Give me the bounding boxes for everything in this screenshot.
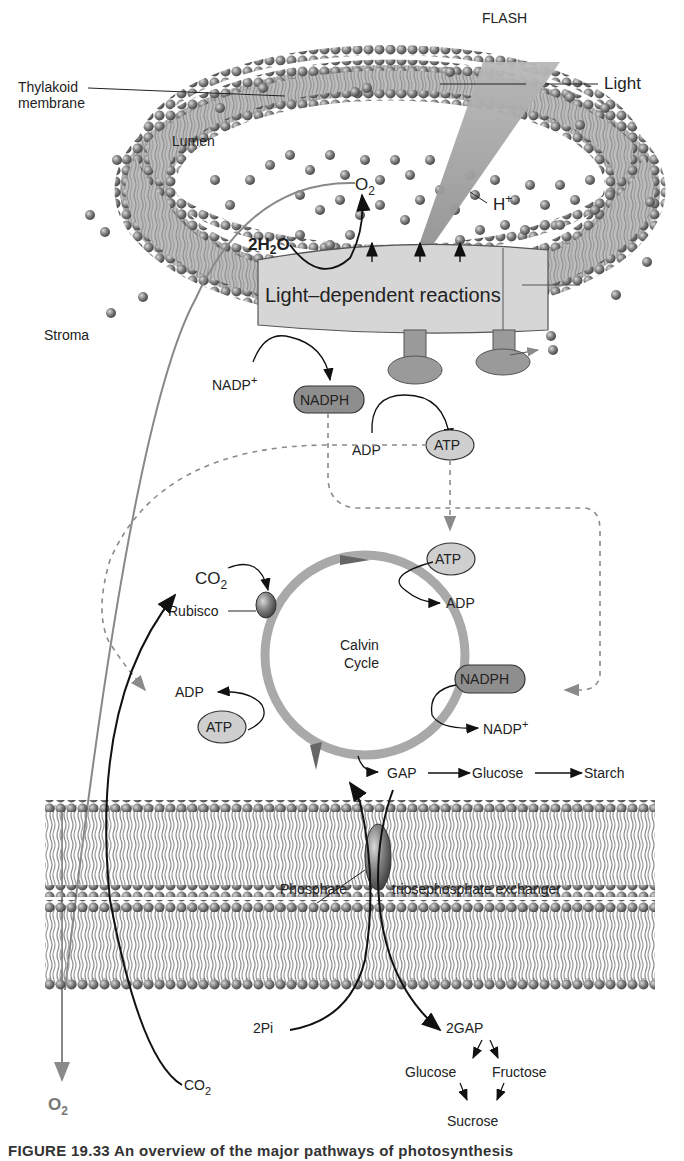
fructose-label: Fructose (492, 1064, 547, 1080)
atp-left-label: ATP (206, 719, 232, 735)
nadph-right-label: NADPH (460, 671, 509, 687)
thylakoid-membrane-label-2: membrane (18, 95, 85, 111)
water-label: 2H2O (248, 235, 290, 257)
two-pi-label: 2Pi (253, 1020, 273, 1036)
co2-in-label: CO2 (184, 1077, 211, 1097)
light-dependent-reactions-label: Light–dependent reactions (265, 284, 501, 306)
adp-right-label: ADP (446, 595, 475, 611)
atp-right-label: ATP (435, 551, 461, 567)
atp-synthase (388, 330, 530, 384)
figure-caption: FIGURE 19.33 An overview of the major pa… (8, 1142, 513, 1159)
starch-label: Starch (584, 765, 624, 781)
chloroplast-envelope (45, 800, 655, 990)
gap-label: GAP (387, 765, 417, 781)
two-gap-label: 2GAP (446, 1020, 483, 1036)
nadph-top-label: NADPH (300, 392, 349, 408)
calvin-label-1: Calvin (340, 637, 379, 653)
light-label: Light (604, 74, 641, 93)
rubisco-enzyme (256, 592, 276, 618)
exchanger-label: triosephosphate exchanger (392, 881, 561, 897)
glucose-top-label: Glucose (472, 765, 524, 781)
nadp-plus-right-label: NADP+ (483, 718, 528, 737)
thylakoid-membrane-label-1: Thylakoid (18, 79, 78, 95)
rubisco-label: Rubisco (168, 603, 219, 619)
stroma-label: Stroma (44, 327, 89, 343)
o2-out-label: O2 (48, 1095, 68, 1118)
atp-top-label: ATP (434, 437, 460, 453)
glucose-bottom-label: Glucose (405, 1064, 457, 1080)
co2-cycle-label: CO2 (195, 569, 228, 592)
sucrose-label: Sucrose (447, 1113, 499, 1129)
phosphate-label: Phosphate (280, 881, 347, 897)
nadp-plus-top-label: NADP+ (212, 374, 257, 393)
lumen-label: Lumen (172, 133, 215, 149)
adp-left-label: ADP (175, 684, 204, 700)
flash-label: FLASH (482, 10, 527, 26)
calvin-label-2: Cycle (344, 655, 379, 671)
